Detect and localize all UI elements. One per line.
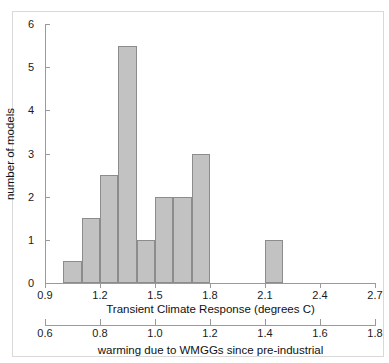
secondary-x-tick-mark [320, 319, 321, 325]
secondary-x-tick-label: 1.8 [355, 327, 389, 339]
figure: number of models 0123456 0.91.21.51.82.1… [0, 0, 389, 363]
histogram-bar [173, 197, 191, 283]
histogram-bar [192, 154, 210, 284]
y-tick-label: 3 [8, 148, 34, 160]
y-tick-label: 5 [8, 61, 34, 73]
secondary-x-tick-label: 1.2 [190, 327, 230, 339]
secondary-x-axis-label: warming due to WMGGs since pre-industria… [45, 344, 376, 356]
x-tick-mark [210, 283, 211, 288]
secondary-x-tick-mark [210, 319, 211, 325]
secondary-x-tick-label: 1.0 [135, 327, 175, 339]
x-tick-label: 1.8 [190, 289, 230, 301]
y-tick-label: 1 [8, 234, 34, 246]
secondary-x-tick-mark [45, 319, 46, 325]
secondary-x-tick-mark [100, 319, 101, 325]
x-axis-label: Transient Climate Response (degrees C) [45, 303, 376, 315]
secondary-x-tick-label: 0.8 [80, 327, 120, 339]
y-tick-label: 2 [8, 191, 34, 203]
y-tick-label: 4 [8, 104, 34, 116]
histogram-bar [137, 240, 155, 283]
x-tick-mark [45, 283, 46, 288]
x-tick-label: 2.4 [300, 289, 340, 301]
secondary-x-tick-label: 0.6 [25, 327, 65, 339]
secondary-x-tick-mark [155, 319, 156, 325]
plot-area [45, 24, 375, 283]
histogram-bar [155, 197, 173, 283]
histogram-bar [118, 46, 136, 283]
x-tick-label: 2.1 [245, 289, 285, 301]
x-tick-label: 1.5 [135, 289, 175, 301]
secondary-x-tick-label: 1.6 [300, 327, 340, 339]
secondary-x-axis-line [45, 325, 376, 326]
x-tick-mark [375, 283, 376, 288]
histogram-bar [82, 218, 100, 283]
x-tick-mark [320, 283, 321, 288]
x-tick-label: 1.2 [80, 289, 120, 301]
secondary-x-tick-label: 1.4 [245, 327, 285, 339]
x-tick-mark [265, 283, 266, 288]
y-tick-label: 6 [8, 18, 34, 30]
histogram-bars [45, 24, 375, 283]
histogram-bar [100, 175, 118, 283]
histogram-bar [63, 261, 81, 283]
x-tick-mark [100, 283, 101, 288]
histogram-bar [265, 240, 283, 283]
secondary-x-tick-mark [265, 319, 266, 325]
x-tick-label: 0.9 [25, 289, 65, 301]
x-tick-mark [155, 283, 156, 288]
secondary-x-tick-mark [375, 319, 376, 325]
x-tick-label: 2.7 [355, 289, 389, 301]
y-tick-label: 0 [8, 277, 34, 289]
